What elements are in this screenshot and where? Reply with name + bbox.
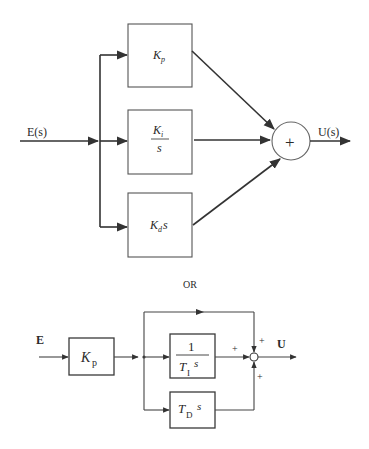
- input-label: E(s): [27, 125, 47, 139]
- derivative-sub: D: [186, 410, 193, 420]
- bottom-output-label: U: [277, 337, 286, 351]
- derivative-suffix: s: [197, 400, 201, 412]
- standard-pid-diagram: E K p 1 T I s: [36, 309, 296, 428]
- derivative-block-standard: T D s: [170, 392, 215, 428]
- junction-sign-top: +: [259, 335, 265, 346]
- sum-plus-sign: +: [285, 133, 295, 152]
- junction-sign-left: +: [232, 343, 238, 354]
- bottom-summing-junction: [250, 353, 258, 361]
- junction-sign-bottom: +: [257, 371, 263, 382]
- gain-block: K p: [69, 338, 114, 375]
- integral-numerator: 1: [188, 339, 195, 354]
- bottom-input-label: E: [36, 333, 44, 347]
- kp-sub: p: [160, 55, 165, 64]
- parallel-pid-diagram: E(s) K p K i s K d s: [20, 24, 350, 257]
- proportional-block: K p: [128, 24, 192, 87]
- kd-to-sum: [193, 159, 280, 225]
- derivative-block: K d s: [128, 193, 192, 257]
- integral-den-suffix: s: [194, 357, 198, 369]
- derivative-main: T: [178, 401, 186, 416]
- kp-to-sum: [192, 51, 274, 129]
- gain-main: K: [80, 350, 91, 365]
- ki-denominator: s: [157, 141, 162, 155]
- or-separator: OR: [183, 279, 197, 290]
- integral-den-main: T: [179, 359, 187, 374]
- bypass-arrow: [196, 309, 204, 315]
- summing-junction: +: [272, 122, 310, 160]
- pid-diagrams: E(s) K p K i s K d s: [0, 0, 369, 449]
- integral-block-standard: 1 T I s: [170, 334, 215, 378]
- integral-block: K i s: [128, 110, 192, 174]
- kd-suffix: s: [163, 218, 168, 232]
- ki-sub: i: [161, 130, 163, 139]
- output-label: U(s): [318, 125, 339, 139]
- gain-sub: p: [92, 357, 97, 368]
- integral-den-sub: I: [187, 368, 190, 378]
